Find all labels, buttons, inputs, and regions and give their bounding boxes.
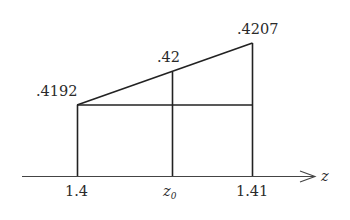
tick-label-z0: z0 xyxy=(162,183,177,201)
tick-label-z0-sub: 0 xyxy=(171,191,177,201)
interpolation-diagram: z .4192 .42 .4207 1.4 z0 1.41 xyxy=(0,0,350,220)
value-label-right: .4207 xyxy=(237,21,279,37)
tick-label-z0-main: z xyxy=(162,183,171,199)
value-label-left: .4192 xyxy=(36,83,78,99)
tick-label-1-41: 1.41 xyxy=(236,183,268,199)
axis-label-z: z xyxy=(320,168,329,184)
value-label-middle: .42 xyxy=(157,49,180,65)
tick-label-1-4: 1.4 xyxy=(65,183,88,199)
